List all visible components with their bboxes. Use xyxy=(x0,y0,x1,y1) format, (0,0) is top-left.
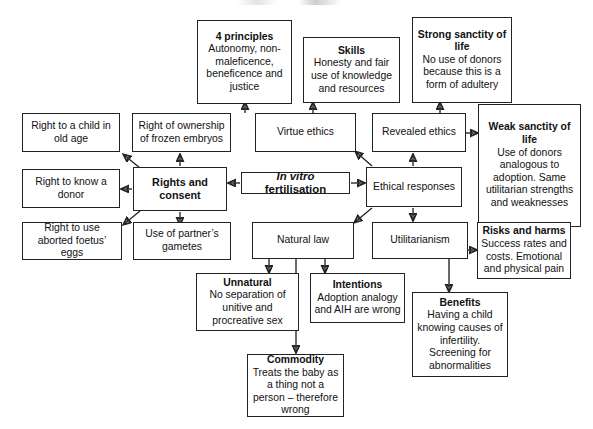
node-body: Right to know a donor xyxy=(26,176,116,201)
node-body: Right of ownership of frozen embryos xyxy=(136,120,227,145)
node-body: Use of donors analogous to adoption. Sam… xyxy=(482,147,577,210)
node-skills[interactable]: Skills Honesty and fair use of knowledge… xyxy=(303,37,400,103)
node-body: Revealed ethics xyxy=(382,126,456,139)
node-label-rest: fertilisation xyxy=(265,183,326,195)
node-right-of-ownership-of-frozen-embryos[interactable]: Right of ownership of frozen embryos xyxy=(132,113,231,152)
node-title: Unnatural xyxy=(223,277,272,290)
node-body: Having a child knowing causes of inferti… xyxy=(416,309,504,372)
node-revealed-ethics[interactable]: Revealed ethics xyxy=(372,113,466,152)
node-right-to-know-a-donor[interactable]: Right to know a donor xyxy=(22,169,120,208)
node-weak-sanctity-of-life[interactable]: Weak sanctity of life Use of donors anal… xyxy=(478,104,581,227)
node-natural-law[interactable]: Natural law xyxy=(252,222,354,259)
node-label: In vitro fertilisation xyxy=(245,170,346,195)
node-virtue-ethics[interactable]: Virtue ethics xyxy=(255,113,356,152)
node-benefits[interactable]: Benefits Having a child knowing causes o… xyxy=(412,292,508,377)
node-4-principles[interactable]: 4 principles Autonomy, non-maleficence, … xyxy=(197,20,292,104)
node-body: Virtue ethics xyxy=(277,126,334,139)
concept-map-canvas: 4 principles Autonomy, non-maleficence, … xyxy=(0,0,593,429)
cropped-title-artifact xyxy=(236,0,356,5)
node-body: Use of partner’s gametes xyxy=(137,228,227,253)
node-title: Benefits xyxy=(440,297,481,310)
node-title: Strong sanctity of life xyxy=(416,29,508,54)
node-title: Rights and consent xyxy=(137,176,223,201)
node-body: Right to a child in old age xyxy=(26,120,116,145)
node-unnatural[interactable]: Unnatural No separation of unitive and p… xyxy=(196,273,299,331)
node-use-of-partners-gametes[interactable]: Use of partner’s gametes xyxy=(133,222,231,260)
node-body: Adoption analogy and AIH are wrong xyxy=(314,292,401,317)
node-risks-and-harms[interactable]: Risks and harms Success rates and costs.… xyxy=(477,222,571,279)
edge-ethical-to-natural-law xyxy=(355,208,372,222)
node-utilitarianism[interactable]: Utilitarianism xyxy=(372,222,468,259)
node-right-to-a-child-in-old-age[interactable]: Right to a child in old age xyxy=(22,113,120,152)
node-body: Autonomy, non-maleficence, beneficence a… xyxy=(201,43,288,93)
node-right-to-use-aborted-foetus-eggs[interactable]: Right to use aborted foetus’ eggs xyxy=(22,222,122,260)
node-body: Utilitarianism xyxy=(390,234,449,247)
node-body: No use of donors because this is a form … xyxy=(416,54,508,92)
node-strong-sanctity-of-life[interactable]: Strong sanctity of life No use of donors… xyxy=(412,17,512,103)
node-rights-and-consent[interactable]: Rights and consent xyxy=(133,167,227,211)
node-title: 4 principles xyxy=(216,31,274,44)
node-ethical-responses[interactable]: Ethical responses xyxy=(366,167,462,207)
node-body: Success rates and costs. Emotional and p… xyxy=(481,238,567,276)
node-body: Ethical responses xyxy=(373,181,455,194)
node-body: No separation of unitive and procreative… xyxy=(200,289,295,327)
node-body: Natural law xyxy=(277,234,329,247)
node-title: Weak sanctity of life xyxy=(482,121,577,146)
node-title: Risks and harms xyxy=(482,225,565,238)
node-title: Commodity xyxy=(267,354,324,367)
node-title: Intentions xyxy=(333,279,383,292)
node-body: Treats the baby as a thing not a person … xyxy=(251,367,340,417)
node-in-vitro-fertilisation[interactable]: In vitro fertilisation xyxy=(241,172,350,194)
node-body: Right to use aborted foetus’ eggs xyxy=(26,222,118,260)
edge-ethical-to-virtue-ethics xyxy=(356,152,372,166)
node-body: Honesty and fair use of knowledge and re… xyxy=(307,57,396,95)
node-commodity[interactable]: Commodity Treats the baby as a thing not… xyxy=(247,354,344,417)
node-label-italic: In vitro xyxy=(277,170,315,182)
node-intentions[interactable]: Intentions Adoption analogy and AIH are … xyxy=(310,273,405,323)
node-title: Skills xyxy=(338,45,365,58)
edge-utilitarianism-to-benefits xyxy=(424,258,449,291)
